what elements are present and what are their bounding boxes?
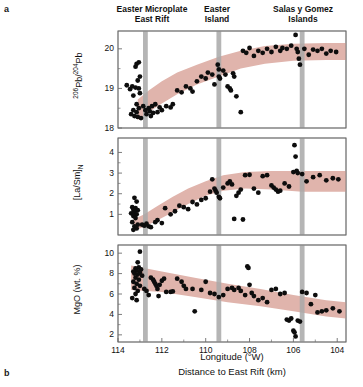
data-point — [199, 74, 204, 79]
data-point — [330, 176, 335, 181]
data-point — [223, 72, 228, 77]
data-point — [175, 88, 180, 93]
data-point — [177, 203, 182, 208]
data-point — [136, 60, 141, 65]
plot-panel-lasm — [118, 138, 346, 235]
data-point — [289, 316, 294, 321]
y-tick-label: 6 — [82, 289, 114, 299]
data-point — [190, 287, 195, 292]
data-point — [134, 199, 139, 204]
data-point — [164, 290, 169, 295]
data-point — [203, 196, 208, 201]
data-point — [181, 283, 186, 288]
data-point — [155, 110, 160, 115]
data-point — [218, 76, 223, 81]
data-point — [170, 102, 175, 107]
data-point — [136, 277, 141, 282]
data-point — [135, 78, 140, 83]
data-point — [238, 187, 243, 192]
data-point — [153, 102, 158, 107]
data-point — [282, 291, 287, 296]
x-tick-label: 106 — [279, 345, 307, 355]
data-point — [162, 276, 167, 281]
data-point — [300, 172, 305, 177]
data-point — [140, 273, 145, 278]
data-point — [212, 82, 217, 87]
data-point — [289, 43, 294, 48]
data-point — [214, 190, 219, 195]
x-tick-label: 104 — [323, 345, 351, 355]
data-point — [134, 298, 139, 303]
data-point — [317, 173, 322, 178]
data-point — [247, 46, 252, 51]
data-point — [148, 225, 153, 230]
data-point — [304, 179, 309, 184]
data-point — [256, 190, 261, 195]
figure-panel-a: a b Easter Microplate East Rift Easter I… — [0, 0, 363, 387]
y-tick-label: 10 — [82, 248, 114, 258]
data-point — [133, 292, 138, 297]
data-point — [138, 249, 143, 254]
data-point — [280, 46, 285, 51]
data-point — [168, 212, 173, 217]
data-point — [241, 217, 246, 222]
data-point — [199, 198, 204, 203]
plots-svg — [0, 0, 363, 387]
data-point — [208, 189, 213, 194]
data-point — [256, 298, 261, 303]
data-point — [319, 46, 324, 51]
x-tick-label: 110 — [192, 345, 220, 355]
data-point — [244, 50, 249, 55]
y-tick-label: 19 — [82, 83, 114, 93]
data-point — [173, 209, 178, 214]
data-point — [230, 182, 235, 187]
data-point — [159, 108, 164, 113]
data-point — [195, 202, 200, 207]
data-point — [124, 83, 129, 88]
data-point — [159, 221, 164, 226]
data-point — [273, 287, 278, 292]
data-point — [229, 88, 234, 93]
data-point — [131, 93, 136, 98]
y-tick-label: 1 — [82, 209, 114, 219]
plot-panel-206pb — [118, 31, 346, 128]
data-point — [265, 173, 270, 178]
y-tick-label: 2 — [82, 329, 114, 339]
data-point — [175, 276, 180, 281]
data-point — [234, 94, 239, 99]
data-point — [192, 309, 197, 314]
data-point — [324, 178, 329, 183]
data-point — [260, 50, 265, 55]
data-point — [215, 62, 220, 67]
x-tick-label: 114 — [104, 345, 132, 355]
data-point — [218, 196, 223, 201]
data-point — [205, 70, 210, 75]
y-tick-label: 4 — [82, 309, 114, 319]
data-point — [309, 302, 314, 307]
data-point — [163, 206, 168, 211]
data-point — [252, 54, 257, 59]
data-point — [311, 47, 316, 52]
data-point — [278, 188, 283, 193]
data-point — [179, 90, 184, 95]
data-point — [336, 177, 341, 182]
data-point — [306, 52, 311, 57]
data-point — [181, 205, 186, 210]
data-point — [287, 184, 292, 189]
data-point — [334, 50, 339, 55]
data-point — [278, 292, 283, 297]
data-point — [128, 87, 133, 92]
data-point — [324, 308, 329, 313]
data-point — [130, 220, 135, 225]
data-point — [298, 62, 303, 67]
data-point — [302, 46, 307, 51]
data-point — [284, 46, 289, 51]
data-point — [246, 266, 251, 271]
data-point — [238, 289, 243, 294]
x-tick-label: 108 — [236, 345, 264, 355]
data-point — [247, 172, 252, 177]
y-tick-label: 2 — [82, 188, 114, 198]
data-point — [292, 143, 297, 148]
y-tick-label: 20 — [82, 43, 114, 53]
data-point — [260, 174, 265, 179]
